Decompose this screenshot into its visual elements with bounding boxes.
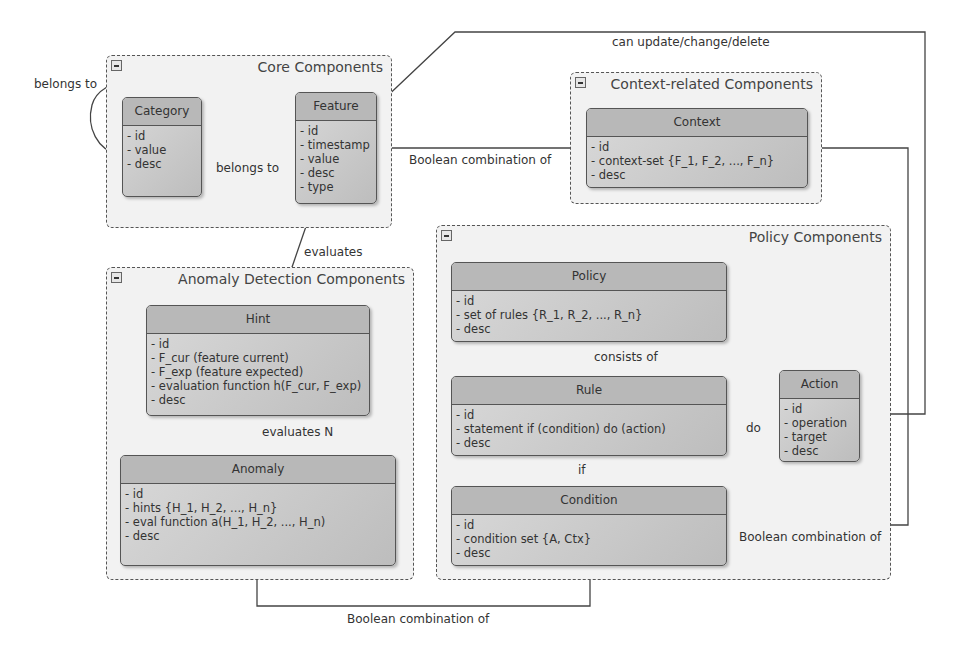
class-attributes: - id - set of rules {R_1, R_2, ..., R_n}… [452, 291, 726, 339]
attribute: - evaluation function h(F_cur, F_exp) [151, 379, 365, 393]
attribute: - id [300, 124, 372, 138]
edge-label-anomaly-hint: evaluates N [262, 425, 333, 439]
attribute: - target [784, 430, 855, 444]
attribute: - desc [784, 444, 855, 458]
class-feature[interactable]: Feature - id - timestamp - value - desc … [295, 92, 377, 204]
attribute: - desc [591, 168, 803, 182]
edge-label-rule-condition: if [578, 463, 586, 477]
attribute: - hints {H_1, H_2, ..., H_n} [125, 501, 391, 515]
attribute: - type [300, 180, 372, 194]
attribute: - condition set {A, Ctx} [456, 532, 722, 546]
collapse-icon[interactable] [111, 272, 122, 283]
edge-label-rule-action: do [746, 421, 761, 435]
class-condition[interactable]: Condition - id - condition set {A, Ctx} … [451, 486, 727, 566]
attribute: - context-set {F_1, F_2, ..., F_n} [591, 154, 803, 168]
edge-label-condition-anomaly: Boolean combination of [347, 612, 489, 626]
package-title: Anomaly Detection Components [178, 271, 405, 287]
attribute: - desc [456, 322, 722, 336]
attribute: - desc [125, 529, 391, 543]
class-attributes: - id - context-set {F_1, F_2, ..., F_n} … [587, 137, 807, 185]
collapse-icon[interactable] [441, 230, 452, 241]
class-hint[interactable]: Hint - id - F_cur (feature current) - F_… [146, 305, 370, 416]
attribute: - id [151, 337, 365, 351]
class-attributes: - id - hints {H_1, H_2, ..., H_n} - eval… [121, 484, 395, 546]
attribute: - F_cur (feature current) [151, 351, 365, 365]
attribute: - desc [151, 393, 365, 407]
class-attributes: - id - F_cur (feature current) - F_exp (… [147, 334, 369, 410]
class-name: Action [780, 371, 859, 399]
attribute: - id [456, 408, 722, 422]
attribute: - F_exp (feature expected) [151, 365, 365, 379]
attribute: - value [300, 152, 372, 166]
attribute: - desc [456, 436, 722, 450]
attribute: - desc [127, 157, 197, 171]
edge-label-feature-category: belongs to [216, 161, 279, 175]
class-name: Feature [296, 93, 376, 121]
attribute: - id [456, 294, 722, 308]
class-attributes: - id - condition set {A, Ctx} - desc [452, 515, 726, 563]
attribute: - id [591, 140, 803, 154]
collapse-icon[interactable] [575, 77, 586, 88]
edge-label-policy-rule: consists of [594, 350, 658, 364]
class-name: Category [123, 98, 201, 126]
edge-label-hint-feature: evaluates [304, 245, 362, 259]
edge-label-action-feature: can update/change/delete [612, 35, 770, 49]
class-anomaly[interactable]: Anomaly - id - hints {H_1, H_2, ..., H_n… [120, 455, 396, 566]
attribute: - value [127, 143, 197, 157]
class-context[interactable]: Context - id - context-set {F_1, F_2, ..… [586, 108, 808, 188]
attribute: - set of rules {R_1, R_2, ..., R_n} [456, 308, 722, 322]
class-name: Rule [452, 377, 726, 405]
class-name: Anomaly [121, 456, 395, 484]
package-title: Context-related Components [611, 76, 813, 92]
attribute: - eval function a(H_1, H_2, ..., H_n) [125, 515, 391, 529]
package-title: Core Components [258, 59, 383, 75]
class-rule[interactable]: Rule - id - statement if (condition) do … [451, 376, 727, 456]
attribute: - id [456, 518, 722, 532]
attribute: - timestamp [300, 138, 372, 152]
attribute: - desc [456, 546, 722, 560]
edge-label-condition-context: Boolean combination of [739, 530, 881, 544]
attribute: - statement if (condition) do (action) [456, 422, 722, 436]
package-title: Policy Components [749, 229, 882, 245]
edge-label-context-feature: Boolean combination of [409, 153, 551, 167]
collapse-icon[interactable] [111, 60, 122, 71]
attribute: - desc [300, 166, 372, 180]
attribute: - operation [784, 416, 855, 430]
class-attributes: - id - operation - target - desc [780, 399, 859, 461]
edge-label-category-self: belongs to [34, 77, 97, 91]
class-attributes: - id - value - desc [123, 126, 201, 174]
class-action[interactable]: Action - id - operation - target - desc [779, 370, 860, 462]
attribute: - id [125, 487, 391, 501]
class-name: Hint [147, 306, 369, 334]
class-policy[interactable]: Policy - id - set of rules {R_1, R_2, ..… [451, 262, 727, 342]
class-name: Context [587, 109, 807, 137]
class-category[interactable]: Category - id - value - desc [122, 97, 202, 197]
class-attributes: - id - timestamp - value - desc - type [296, 121, 376, 197]
attribute: - id [127, 129, 197, 143]
class-name: Condition [452, 487, 726, 515]
class-name: Policy [452, 263, 726, 291]
attribute: - id [784, 402, 855, 416]
class-attributes: - id - statement if (condition) do (acti… [452, 405, 726, 453]
